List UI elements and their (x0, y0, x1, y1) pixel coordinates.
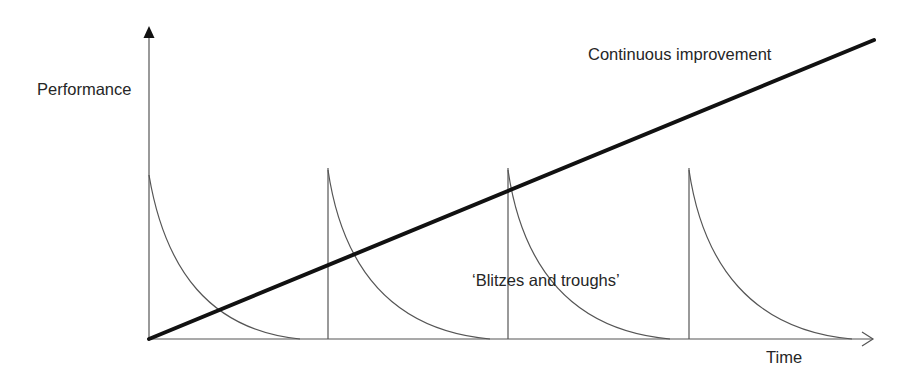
y-axis (144, 26, 155, 339)
continuous-improvement-line (149, 40, 874, 339)
blitz-curve-4 (689, 170, 852, 339)
y-axis-arrowhead-icon (144, 26, 155, 38)
y-axis-label: Performance (37, 80, 131, 98)
x-axis-label: Time (766, 348, 802, 366)
performance-diagram: Performance Time Continuous improvement … (0, 0, 911, 385)
blitz-curve-1 (149, 175, 300, 339)
blitz-curve-3 (508, 170, 670, 339)
blitzes-troughs-label: ‘Blitzes and troughs’ (472, 271, 620, 289)
continuous-improvement-label: Continuous improvement (588, 45, 772, 63)
x-axis (149, 332, 873, 346)
